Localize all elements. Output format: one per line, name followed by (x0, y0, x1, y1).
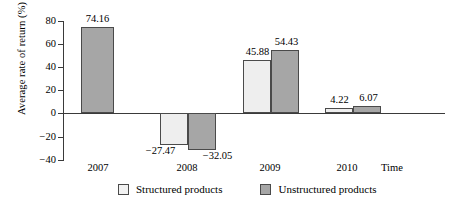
bar-2009-structured[interactable] (243, 60, 271, 113)
bar-value-2008-structured: −27.47 (132, 146, 189, 157)
legend-swatch-icon-structured (118, 184, 129, 195)
bar-2010-unstructured[interactable] (353, 106, 381, 113)
bar-2008-structured[interactable] (160, 113, 188, 145)
bar-value-2008-unstructured: −32.05 (189, 151, 246, 162)
bar-2008-unstructured[interactable] (188, 113, 216, 150)
bar-value-2009-unstructured: 54.43 (258, 37, 315, 48)
bar-2009-unstructured[interactable] (271, 50, 299, 113)
legend-label-unstructured: Unstructured products (278, 184, 376, 195)
bar-chart-figure: Average rate of return (%) 80 60 40 20 0… (0, 0, 464, 212)
chart-legend: Structured products Unstructured product… (118, 184, 377, 195)
legend-item-unstructured[interactable]: Unstructured products (260, 184, 376, 195)
legend-item-structured[interactable]: Structured products (118, 184, 222, 195)
bar-value-2007-unstructured: 74.16 (69, 14, 126, 25)
bar-2007-unstructured[interactable] (81, 27, 114, 113)
bar-2010-structured[interactable] (325, 108, 353, 113)
x-tick-label-2007: 2007 (75, 163, 121, 174)
legend-swatch-icon-unstructured (260, 184, 271, 195)
bar-value-2010-unstructured: 6.07 (340, 93, 397, 104)
bars-layer: 74.16 −27.47 −32.05 45.88 54.43 4.22 6.0… (0, 0, 464, 212)
x-axis-title: Time (381, 163, 403, 174)
x-tick-label-2010: 2010 (324, 163, 370, 174)
x-tick-label-2008: 2008 (164, 163, 210, 174)
x-tick-label-2009: 2009 (247, 163, 293, 174)
legend-label-structured: Structured products (136, 184, 222, 195)
